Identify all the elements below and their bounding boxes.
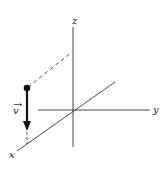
x-axis xyxy=(17,82,115,151)
dashed-projection-to-z xyxy=(28,52,72,87)
z-axis-label: z xyxy=(71,15,78,26)
vector-accent-head-icon xyxy=(20,103,22,106)
vector-label: v xyxy=(13,105,19,116)
diagram-canvas: z y x v xyxy=(0,0,166,172)
x-axis-label: x xyxy=(9,149,15,160)
y-axis-label: y xyxy=(152,104,159,115)
vector-arrowhead-icon xyxy=(23,121,31,131)
